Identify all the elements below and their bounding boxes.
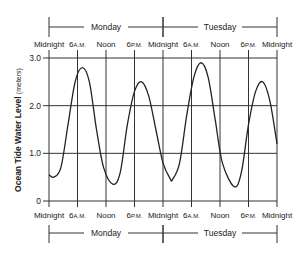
x-tick-label: Noon bbox=[96, 40, 115, 49]
x-tick-label: Midnight bbox=[262, 211, 293, 220]
x-tick-label: 6P.M. bbox=[126, 40, 142, 49]
x-tick-label: Noon bbox=[210, 211, 229, 220]
x-tick-label: 6A.M. bbox=[69, 40, 86, 49]
x-tick-label: 6P.M. bbox=[126, 211, 142, 220]
x-tick-label: 6P.M. bbox=[240, 40, 256, 49]
y-tick-label: 2.0 bbox=[29, 101, 41, 111]
y-tick-label: 1.0 bbox=[29, 148, 41, 158]
x-tick-label: Noon bbox=[210, 40, 229, 49]
day-label: Monday bbox=[91, 22, 122, 32]
y-axis-label: Ocean Tide Water Level (meters) bbox=[13, 68, 23, 192]
x-axis-top: Midnight6A.M.Noon6P.M.Midnight6A.M.Noon6… bbox=[34, 40, 293, 49]
x-tick-label: 6A.M. bbox=[183, 211, 200, 220]
x-axis-bottom: Midnight6A.M.Noon6P.M.Midnight6A.M.Noon6… bbox=[34, 211, 293, 220]
x-tick-label: Midnight bbox=[34, 211, 65, 220]
day-label: Monday bbox=[91, 228, 122, 238]
day-label: Tuesday bbox=[204, 228, 237, 238]
x-tick-label: Midnight bbox=[148, 40, 179, 49]
tide-chart: 01.02.03.0 Midnight6A.M.Noon6P.M.Midnigh… bbox=[0, 0, 308, 258]
x-tick-label: Midnight bbox=[34, 40, 65, 49]
x-tick-label: 6P.M. bbox=[240, 211, 256, 220]
y-tick-label: 0 bbox=[36, 196, 41, 206]
y-axis: 01.02.03.0 bbox=[29, 53, 41, 206]
y-tick-label: 3.0 bbox=[29, 53, 41, 63]
day-label: Tuesday bbox=[204, 22, 237, 32]
x-tick-label: 6A.M. bbox=[183, 40, 200, 49]
x-tick-label: Noon bbox=[96, 211, 115, 220]
x-tick-label: 6A.M. bbox=[69, 211, 86, 220]
x-tick-label: Midnight bbox=[148, 211, 179, 220]
x-tick-label: Midnight bbox=[262, 40, 293, 49]
